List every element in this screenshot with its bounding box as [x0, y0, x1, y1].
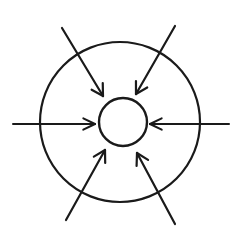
arrow-left	[13, 118, 95, 129]
arrow-bottom-right-shaft	[137, 153, 175, 224]
inner-circle	[99, 98, 147, 146]
outer-circle	[40, 42, 200, 202]
diagram-canvas	[0, 0, 244, 237]
diagram-svg	[0, 0, 244, 237]
arrow-bottom-right	[137, 153, 175, 224]
circles-group	[40, 42, 200, 202]
arrows-group	[13, 26, 229, 224]
arrow-right	[150, 118, 229, 129]
